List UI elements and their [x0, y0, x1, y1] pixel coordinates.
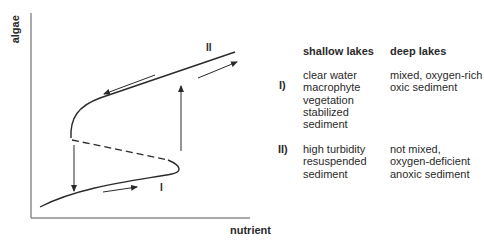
row-I-shallow-line: stabilized	[303, 106, 360, 118]
row-I-shallow-line: macrophyte	[303, 81, 360, 93]
row-I-deep: mixed, oxygen-rich oxic sediment	[390, 69, 482, 94]
row-I-deep-line: oxic sediment	[390, 81, 482, 93]
row-I-shallow-line: sediment	[303, 118, 360, 130]
row-I-shallow-line: vegetation	[303, 94, 360, 106]
row-label-II: II)	[278, 143, 288, 156]
row-I-shallow: clear water macrophyte vegetation stabil…	[303, 69, 360, 130]
row-I-deep-line: mixed, oxygen-rich	[390, 69, 482, 81]
upper-branch-arrow-left	[104, 75, 155, 94]
header-deep-lakes: deep lakes	[390, 45, 446, 58]
row-II-shallow-line: resuspended	[303, 155, 367, 167]
row-II-shallow: high turbidity resuspended sediment	[303, 143, 367, 180]
row-II-deep-line: anoxic sediment	[390, 168, 470, 180]
hysteresis-diagram	[0, 0, 484, 246]
upper-branch-arrow-right	[198, 62, 237, 78]
state-label-II: II	[206, 42, 212, 55]
upper-stable-branch	[71, 52, 235, 138]
lower-stable-branch	[40, 160, 179, 207]
row-I-shallow-line: clear water	[303, 69, 360, 81]
header-shallow-lakes: shallow lakes	[303, 45, 374, 58]
row-II-shallow-line: high turbidity	[303, 143, 367, 155]
unstable-branch	[72, 140, 168, 160]
row-II-deep-line: not mixed,	[390, 143, 470, 155]
x-axis-label: nutrient	[230, 224, 271, 237]
row-II-deep: not mixed, oxygen-deficient anoxic sedim…	[390, 143, 470, 180]
row-II-shallow-line: sediment	[303, 168, 367, 180]
y-axis-label: algae	[9, 12, 22, 46]
lower-branch-arrow-right	[103, 187, 137, 192]
row-label-I: I)	[279, 79, 286, 92]
state-label-I: I	[160, 182, 163, 195]
row-II-deep-line: oxygen-deficient	[390, 155, 470, 167]
